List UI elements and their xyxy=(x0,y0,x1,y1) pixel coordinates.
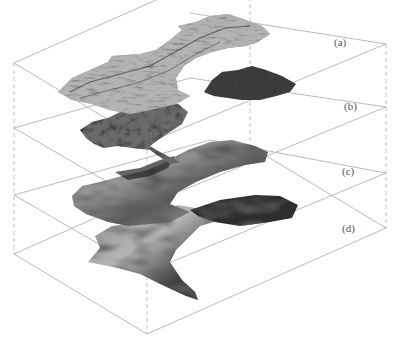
layer-label-d: (d) xyxy=(342,222,355,234)
layer-label-c: (c) xyxy=(342,165,354,177)
layer-label-a: (a) xyxy=(334,36,346,48)
stacked-terrain-figure: (a) (b) (c) (d) xyxy=(0,0,396,342)
layer-label-b: (b) xyxy=(344,100,357,112)
terrain-diagram xyxy=(0,0,396,342)
